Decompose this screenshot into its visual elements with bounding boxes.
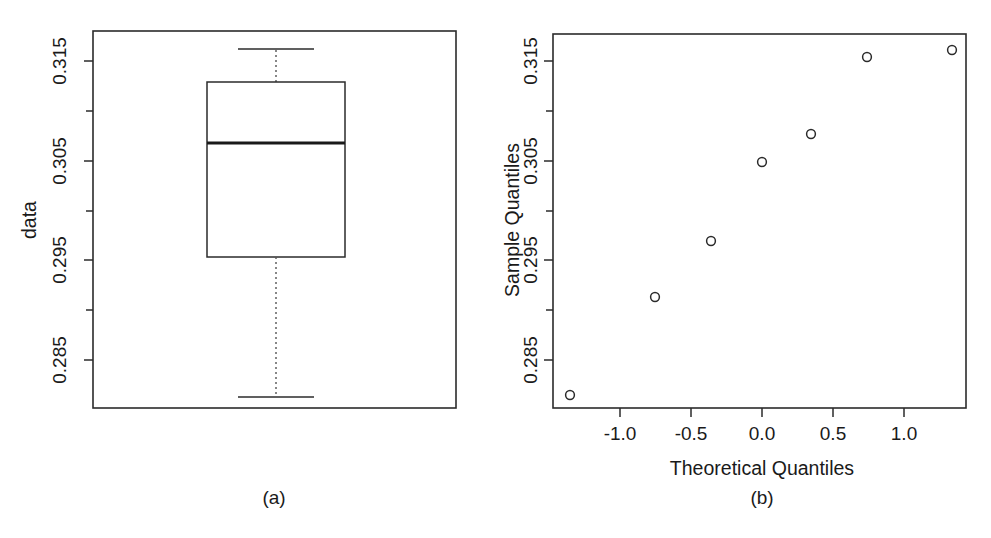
boxplot-y-minor-ticks [86,111,93,310]
qq-data-point [807,130,816,139]
panel-caption-a: (a) [262,487,285,508]
qq-x-axis-title: Theoretical Quantiles [670,457,855,479]
qq-x-tick-label-05: 0.5 [820,423,846,444]
qq-x-tick-label-0: 0.0 [749,423,775,444]
qq-data-point [707,237,716,246]
qq-y-minor-ticks [546,111,553,310]
qq-data-point [566,391,575,400]
boxplot-y-tick-label-0315: 0.315 [49,37,70,85]
qq-x-major-ticks [620,408,904,417]
qq-x-tick-label-neg05: -0.5 [675,423,708,444]
qq-data-point [948,46,957,55]
qq-y-tick-label-0315: 0.315 [520,37,541,85]
qq-y-tick-label-0285: 0.285 [520,336,541,384]
boxplot-y-tick-label-0285: 0.285 [49,336,70,384]
boxplot-panel: data 0.315 0.305 0.295 0.285 [0,0,500,538]
qq-data-point [863,53,872,62]
qq-y-tick-label-0295: 0.295 [520,236,541,284]
qq-data-point [651,293,660,302]
qq-plot-frame [553,34,966,408]
qq-data-point [758,158,767,167]
qq-x-tick-label-1: 1.0 [891,423,917,444]
figure-container: data 0.315 0.305 0.295 0.285 [0,0,991,538]
boxplot-y-tick-label-0295: 0.295 [49,236,70,284]
boxplot-plot-frame [93,31,456,408]
boxplot-y-tick-label-0305: 0.305 [49,137,70,185]
boxplot-y-axis-title: data [18,201,40,239]
boxplot-box [207,82,345,257]
qq-x-tick-label-neg1: -1.0 [604,423,637,444]
qq-panel: Sample Quantiles 0.315 0.305 0.295 0.285 [500,0,991,538]
panel-caption-b: (b) [750,487,773,508]
qq-y-tick-label-0305: 0.305 [520,137,541,185]
qq-data-points [566,46,957,400]
